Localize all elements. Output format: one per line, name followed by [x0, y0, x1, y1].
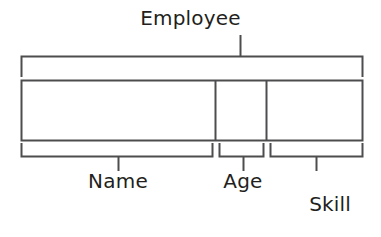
- field-label-name: Name: [58, 170, 178, 193]
- name-bracket: [22, 143, 213, 157]
- age-bracket: [220, 143, 264, 157]
- record-title-label: Employee: [0, 7, 381, 30]
- field-label-age: Age: [203, 170, 283, 193]
- diagram-canvas: Employee Name Age Skill Rating: [0, 0, 381, 237]
- field-label-skill-rating-line-1: Skill: [309, 192, 351, 216]
- skill-rating-bracket: [271, 143, 363, 157]
- record-box: [22, 81, 363, 141]
- field-label-skill-rating: Skill Rating: [273, 170, 361, 237]
- employee-bracket: [22, 57, 363, 78]
